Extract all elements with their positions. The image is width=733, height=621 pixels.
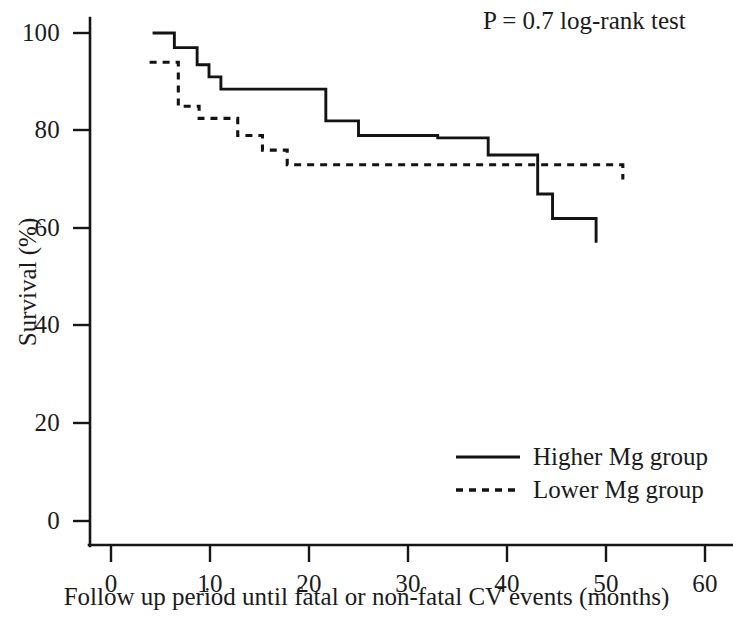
legend-label-higher-mg: Higher Mg group: [533, 444, 708, 469]
legend-item-lower-mg: Lower Mg group: [455, 473, 733, 506]
chart-legend: Higher Mg group Lower Mg group: [455, 440, 733, 506]
plot-canvas: [0, 0, 733, 621]
y-tick-label-0: 0: [0, 508, 60, 533]
legend-label-lower-mg: Lower Mg group: [533, 477, 704, 502]
legend-item-higher-mg: Higher Mg group: [455, 440, 733, 473]
x-axis-title: Follow up period until fatal or non-fata…: [0, 583, 733, 611]
y-axis-ticks: [73, 33, 90, 521]
series-line-higher-mg: [153, 33, 597, 243]
x-axis-ticks: [111, 545, 705, 562]
y-tick-label-100: 100: [0, 20, 60, 45]
y-tick-label-80: 80: [0, 117, 60, 142]
pvalue-annotation: P = 0.7 log-rank test: [483, 7, 686, 35]
legend-swatch-dashed-icon: [455, 483, 521, 497]
legend-swatch-solid-icon: [455, 450, 521, 464]
survival-chart-figure: 100 80 60 40 20 0 0 10 20 30 40 50 60 Su…: [0, 0, 733, 621]
y-tick-label-20: 20: [0, 410, 60, 435]
y-axis-title: Survival (%): [14, 182, 42, 382]
